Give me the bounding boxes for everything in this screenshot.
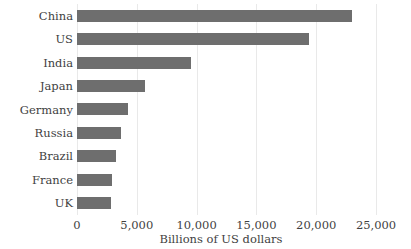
y-axis-label-us: US (1, 33, 73, 45)
bar-us (77, 33, 309, 45)
x-tick-label-0: 0 (73, 218, 80, 232)
x-tick-label-15000: 15,000 (236, 218, 276, 232)
bar-france (77, 174, 112, 186)
y-axis-label-japan: Japan (1, 80, 73, 92)
bar-row (77, 168, 112, 191)
y-axis-label-france: France (1, 174, 73, 186)
bar-japan (77, 80, 145, 92)
x-tick-label-5000: 5,000 (120, 218, 153, 232)
gridline-25000 (376, 4, 377, 215)
bar-row (77, 4, 352, 27)
plot-area (77, 4, 376, 215)
bar-row (77, 74, 145, 97)
bar-chart: ChinaUSIndiaJapanGermanyRussiaBrazilFran… (0, 0, 411, 249)
y-axis-label-india: India (1, 57, 73, 69)
y-axis-label-china: China (1, 10, 73, 22)
bar-uk (77, 197, 111, 209)
bar-india (77, 57, 191, 69)
bar-row (77, 145, 116, 168)
y-axis-label-brazil: Brazil (1, 150, 73, 162)
bar-china (77, 10, 352, 22)
y-axis-category-labels: ChinaUSIndiaJapanGermanyRussiaBrazilFran… (0, 4, 73, 215)
y-axis-label-uk: UK (1, 197, 73, 209)
bar-row (77, 98, 128, 121)
y-axis-label-germany: Germany (1, 104, 73, 116)
x-axis-title: Billions of US dollars (0, 232, 411, 246)
bar-brazil (77, 150, 116, 162)
gridline-20000 (316, 4, 317, 215)
bar-row (77, 192, 111, 215)
x-tick-label-25000: 25,000 (356, 218, 396, 232)
x-axis-title-text: Billions of US dollars (159, 232, 282, 246)
x-tick-label-10000: 10,000 (176, 218, 216, 232)
bar-row (77, 51, 191, 74)
bar-germany (77, 103, 128, 115)
bar-row (77, 121, 121, 144)
y-axis-label-russia: Russia (1, 127, 73, 139)
bar-russia (77, 127, 121, 139)
x-tick-label-20000: 20,000 (296, 218, 336, 232)
bar-row (77, 27, 309, 50)
